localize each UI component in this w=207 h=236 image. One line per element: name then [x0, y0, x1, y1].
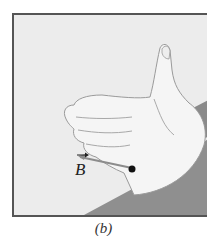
- vector-arrow-icon: [77, 152, 89, 158]
- vector-label: B: [75, 160, 85, 180]
- hand-illustration: [14, 15, 207, 215]
- origin-dot: [129, 166, 136, 173]
- figure-caption: (b): [0, 220, 207, 236]
- figure-frame: [12, 13, 207, 217]
- hand-palm-icon: [64, 44, 205, 195]
